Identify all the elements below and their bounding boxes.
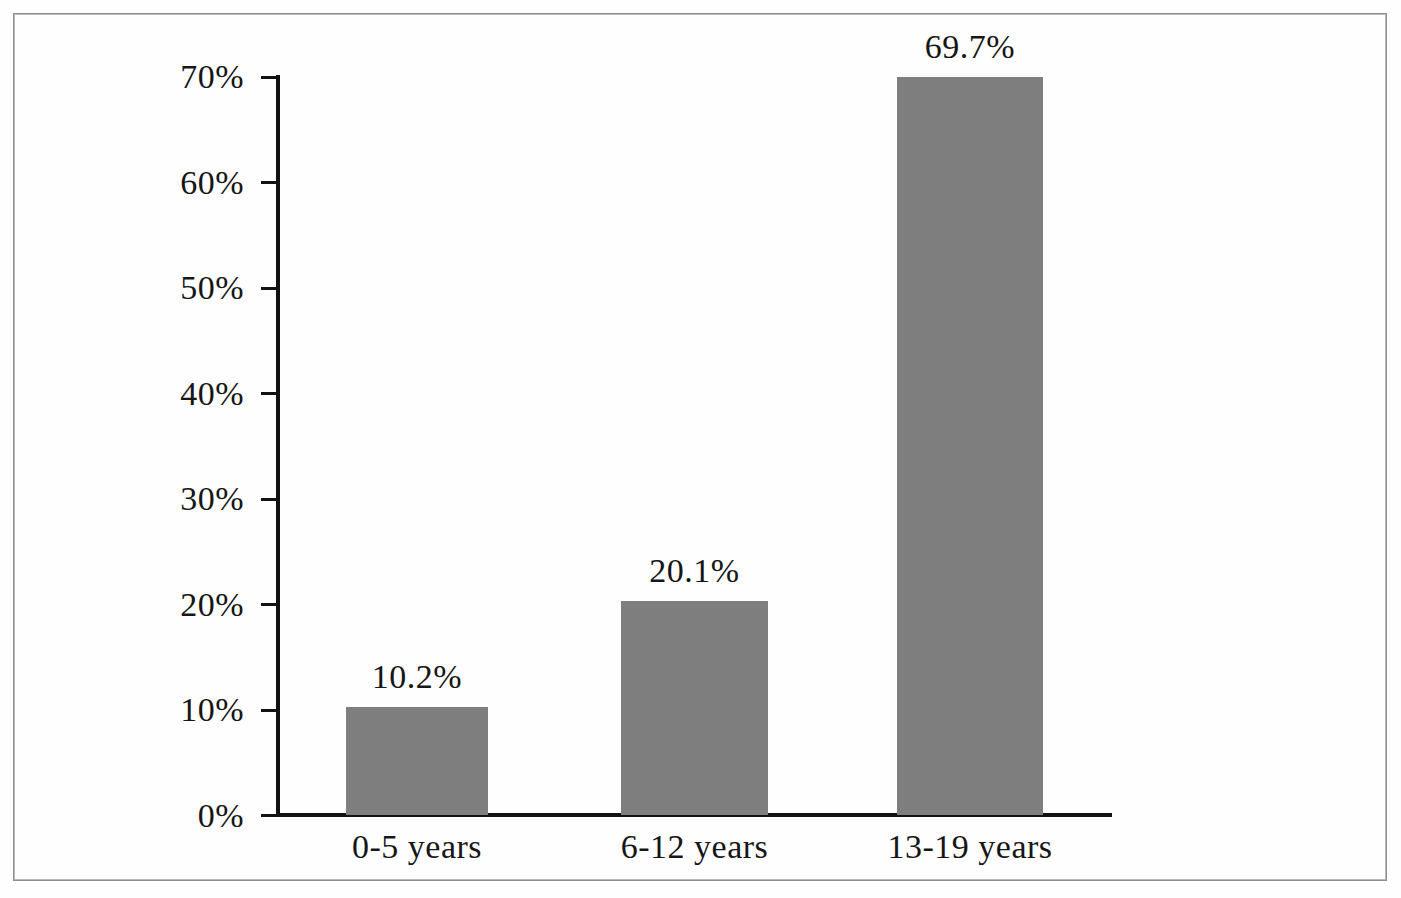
y-tick-mark-30 bbox=[261, 498, 278, 501]
y-tick-mark-50 bbox=[261, 287, 278, 290]
y-axis-line bbox=[276, 75, 280, 817]
y-tick-mark-10 bbox=[261, 709, 278, 712]
y-axis-label-50: 50% bbox=[180, 271, 244, 305]
y-axis-label-60: 60% bbox=[180, 166, 244, 200]
x-axis-category-13-19-years: 13-19 years bbox=[855, 830, 1085, 864]
x-axis-category-0-5-years: 0-5 years bbox=[316, 830, 518, 864]
bar-value-label-13-19-years: 69.7% bbox=[897, 30, 1043, 64]
y-tick-mark-60 bbox=[261, 181, 278, 184]
y-tick-mark-20 bbox=[261, 603, 278, 606]
y-tick-mark-0 bbox=[261, 814, 278, 817]
x-axis-category-6-12-years: 6-12 years bbox=[586, 830, 803, 864]
y-axis-label-30: 30% bbox=[180, 482, 244, 516]
y-axis-label-70: 70% bbox=[180, 60, 244, 94]
y-tick-mark-40 bbox=[261, 392, 278, 395]
y-axis-label-0: 0% bbox=[198, 799, 244, 833]
y-axis-label-20: 20% bbox=[180, 588, 244, 622]
plot-area: 70% 60% 50% 40% 30% 20% 10% 0% 10.2% 0-5… bbox=[0, 0, 1401, 898]
bar-0-5-years[interactable] bbox=[346, 707, 488, 815]
bar-value-label-0-5-years: 10.2% bbox=[346, 660, 488, 694]
y-axis-label-10: 10% bbox=[180, 693, 244, 727]
bar-13-19-years[interactable] bbox=[897, 77, 1043, 815]
chart-figure: 70% 60% 50% 40% 30% 20% 10% 0% 10.2% 0-5… bbox=[0, 0, 1401, 898]
y-axis-label-40: 40% bbox=[180, 377, 244, 411]
bar-6-12-years[interactable] bbox=[621, 601, 768, 815]
y-tick-mark-70 bbox=[261, 76, 278, 79]
bar-value-label-6-12-years: 20.1% bbox=[621, 554, 768, 588]
